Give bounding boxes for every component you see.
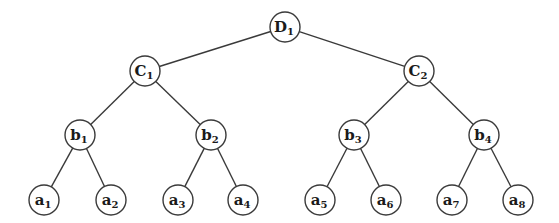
node-b1: b1	[65, 120, 95, 150]
node-b2: b2	[196, 120, 226, 150]
edge-b3-a5	[327, 148, 347, 186]
edge-b1-a2	[87, 149, 105, 187]
node-b3: b3	[339, 120, 369, 150]
edge-b4-a8	[491, 148, 511, 186]
edge-D1-C2	[299, 32, 404, 67]
node-b4: b4	[469, 120, 499, 150]
tree-nodes: D1C1C2b1b2b3b4a1a2a3a4a5a6a7a8	[29, 12, 533, 215]
node-a6: a6	[371, 185, 401, 215]
edge-C2-b3	[365, 82, 409, 125]
edge-C2-b4	[430, 82, 474, 125]
node-a3: a3	[163, 185, 193, 215]
node-C1: C1	[130, 56, 160, 86]
node-a5: a5	[305, 185, 335, 215]
node-C2: C2	[404, 56, 434, 86]
edge-C1-b1	[91, 82, 135, 125]
tree-diagram: D1C1C2b1b2b3b4a1a2a3a4a5a6a7a8	[0, 0, 559, 223]
node-a2: a2	[96, 185, 126, 215]
edge-b4-a7	[459, 149, 478, 187]
edge-b2-a3	[185, 148, 204, 186]
edge-b2-a4	[218, 149, 237, 187]
edge-C1-b2	[156, 81, 200, 124]
edge-b1-a1	[51, 148, 72, 187]
edge-b3-a6	[361, 149, 380, 187]
tree-edges	[51, 32, 511, 187]
node-a1: a1	[29, 185, 59, 215]
node-a7: a7	[437, 185, 467, 215]
node-a8: a8	[503, 185, 533, 215]
edge-D1-C1	[159, 32, 270, 67]
node-a4: a4	[228, 185, 258, 215]
node-D1: D1	[270, 12, 300, 42]
